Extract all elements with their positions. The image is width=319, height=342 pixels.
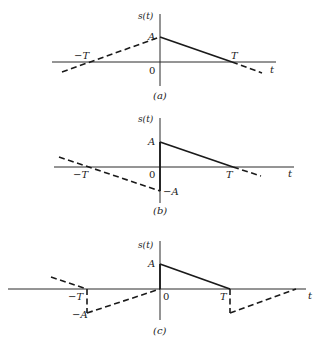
caption-b: (b) [153,205,167,216]
pos-T-label: T [231,50,239,61]
amp-label: A [147,31,155,42]
caption-a: (a) [153,90,167,101]
panel-a: s(t) A −T T 0 t (a) [52,11,276,101]
neg-amp-label: −A [163,186,179,197]
signal-solid [160,142,233,167]
signal-figure: s(t) A −T T 0 t (a) s(t) A −A −T T 0 t (… [0,0,319,342]
signal-solid [160,37,232,62]
signal-dashed-right [232,62,262,73]
signal-dashed-left [87,289,160,313]
neg-amp-label: −A [72,309,88,320]
panel-b: s(t) A −A −T T 0 t (b) [54,114,294,216]
x-axis-label: t [270,64,275,75]
pos-T-label: T [220,291,228,302]
panel-c: s(t) A −A −T T 0 t (c) [8,240,313,336]
signal-dashed-right [230,289,296,313]
signal-dashed-right [233,167,261,176]
neg-T-label: −T [68,291,84,302]
x-axis-label: t [288,168,293,179]
neg-T-label: −T [74,50,90,61]
y-axis-label: s(t) [138,114,154,124]
y-axis-label: s(t) [138,240,154,250]
x-axis-label: t [308,290,313,301]
pos-T-label: T [226,169,234,180]
origin-label: 0 [163,291,169,302]
signal-dashed-far-left [51,277,87,289]
origin-label: 0 [149,65,155,76]
amp-label: A [147,258,155,269]
caption-c: (c) [153,325,167,336]
amp-label: A [147,136,155,147]
neg-T-label: −T [73,169,89,180]
y-axis-label: s(t) [138,11,154,21]
origin-label: 0 [149,169,155,180]
signal-solid [160,264,230,289]
